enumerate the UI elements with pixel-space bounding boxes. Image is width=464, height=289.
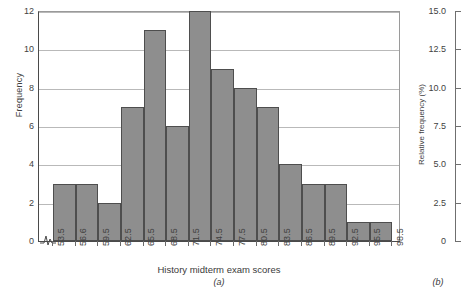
x-axis-tickmark <box>301 241 302 246</box>
x-axis-tick-label: 71.5 <box>191 228 201 246</box>
histogram-bar <box>234 88 257 241</box>
x-axis-tick-label: 59.5 <box>101 228 111 246</box>
x-axis-tick-label: 95.5 <box>372 228 382 246</box>
secondary-y-axis-tickmark <box>455 11 461 12</box>
x-axis-tickmark <box>143 241 144 246</box>
x-axis-tickmark <box>97 241 98 246</box>
x-axis-tick-label: 65.5 <box>146 228 156 246</box>
secondary-y-axis-tick-label: 0 <box>441 236 446 246</box>
x-axis-tick-label: 77.5 <box>237 228 247 246</box>
y-axis-tick-label: 8 <box>29 83 34 93</box>
secondary-y-axis-tickmark <box>455 126 461 127</box>
x-axis-tickmark <box>165 241 166 246</box>
x-axis-tickmark <box>52 241 53 246</box>
secondary-y-axis-tickmark <box>455 241 461 242</box>
secondary-y-axis-tick-label: 5.0 <box>433 159 446 169</box>
x-axis-tickmark <box>278 241 279 246</box>
x-axis-tickmark <box>75 241 76 246</box>
y-axis-tick-label: 12 <box>24 6 34 16</box>
y-axis-tick-label: 0 <box>29 236 34 246</box>
x-axis-tick-label: 98.5 <box>395 228 405 246</box>
secondary-y-axis-tickmark <box>455 88 461 89</box>
x-axis-tick-label: 74.5 <box>214 228 224 246</box>
y-axis-tick-label: 2 <box>29 198 34 208</box>
x-axis-tick-label: 83.5 <box>282 228 292 246</box>
secondary-y-axis-tick-label: 12.5 <box>428 44 446 54</box>
histogram-bar <box>121 107 144 241</box>
plot-area <box>38 11 400 241</box>
x-axis-tickmark <box>391 241 392 246</box>
y-axis-tick-label: 6 <box>29 121 34 131</box>
panel-a-caption: (a) <box>38 277 400 287</box>
y-axis-tick-label: 10 <box>24 44 34 54</box>
x-axis-tick-label: 68.5 <box>169 228 179 246</box>
secondary-y-axis-ticks: 02.55.07.510.012.515.0 <box>404 0 454 289</box>
secondary-y-axis-tick-label: 15.0 <box>428 6 446 16</box>
x-axis-tickmark <box>188 241 189 246</box>
x-axis-tickmark <box>346 241 347 246</box>
x-axis-tick-label: 53.5 <box>56 228 66 246</box>
x-axis-tick-label: 89.5 <box>327 228 337 246</box>
secondary-y-axis-tickmark <box>455 203 461 204</box>
histogram-bar <box>257 107 280 241</box>
x-axis-tick-label: 62.5 <box>123 228 133 246</box>
x-axis-tickmark <box>120 241 121 246</box>
y-axis-ticks: 024681012 <box>0 0 38 289</box>
x-axis-tick-label: 86.5 <box>304 228 314 246</box>
x-axis-tickmark <box>324 241 325 246</box>
secondary-y-axis-tick-label: 2.5 <box>433 198 446 208</box>
x-axis-tick-label: 92.5 <box>350 228 360 246</box>
x-axis-tickmark <box>256 241 257 246</box>
histogram-bar <box>211 69 234 242</box>
bar-series <box>39 12 399 241</box>
x-axis-tickmark <box>233 241 234 246</box>
secondary-y-axis-tick-label: 10.0 <box>428 83 446 93</box>
x-axis-tick-label: 56.6 <box>78 228 88 246</box>
x-axis-tickmark <box>210 241 211 246</box>
histogram-bar <box>189 11 212 241</box>
x-axis-tick-label: 80.5 <box>259 228 269 246</box>
secondary-y-axis-tickmark <box>455 164 461 165</box>
histogram-bar <box>144 30 167 241</box>
y-axis-tick-label: 4 <box>29 159 34 169</box>
secondary-y-axis-tick-label: 7.5 <box>433 121 446 131</box>
x-axis-label: History midterm exam scores <box>38 264 400 275</box>
x-axis-tickmark <box>369 241 370 246</box>
secondary-y-axis-tickmark <box>455 49 461 50</box>
panel-b-relative-frequency: Relative frequency (%) 02.55.07.510.012.… <box>404 0 464 289</box>
histogram-bar <box>166 126 189 241</box>
histogram-figure: Frequency 024681012 History midterm exam… <box>0 0 464 289</box>
panel-b-caption: (b) <box>418 277 458 287</box>
